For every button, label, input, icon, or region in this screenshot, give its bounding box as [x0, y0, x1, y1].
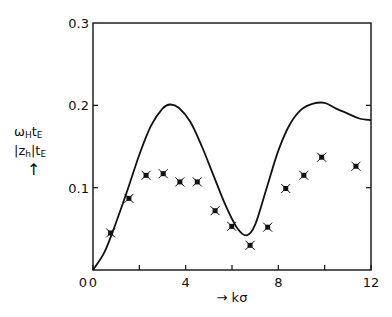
data-point-marker — [161, 171, 166, 176]
data-point-marker — [195, 179, 200, 184]
x-tick-label: 12 — [363, 275, 380, 290]
y-label-sub-e2: E — [40, 149, 46, 159]
y-label-omega: ωHtE — [14, 124, 46, 143]
y-tick-label: 0.1 — [68, 181, 89, 196]
x-tick-label: 8 — [274, 275, 282, 290]
data-point-marker — [213, 208, 218, 213]
data-point-marker — [229, 224, 234, 229]
y-axis-label: ωHtE |zh|tE — [14, 124, 46, 162]
y-label-t2: |t — [31, 143, 40, 158]
data-point-marker — [283, 186, 288, 191]
data-point-marker — [126, 196, 131, 201]
y-tick-label: 0 — [79, 275, 87, 290]
y-tick-label: 0.3 — [68, 16, 89, 31]
chart-plot: 0481200.10.20.3→ kσ — [0, 0, 392, 317]
x-tick-label: 4 — [182, 275, 190, 290]
curve-omega-h — [93, 102, 371, 270]
arrow-up-icon: ↑ — [27, 160, 40, 179]
data-point-marker — [248, 243, 253, 248]
plot-frame — [93, 23, 371, 270]
data-point-marker — [108, 230, 113, 235]
data-point-marker — [353, 164, 358, 169]
data-point-marker — [144, 173, 149, 178]
y-label-z-symbol: |z — [14, 143, 25, 158]
y-label-omega-symbol: ω — [14, 124, 25, 139]
x-tick-label: 0 — [89, 275, 97, 290]
y-label-sub-e: E — [37, 130, 43, 140]
y-label-sub-h: H — [25, 130, 32, 140]
data-point-marker — [177, 179, 182, 184]
data-point-marker — [319, 155, 324, 160]
data-point-marker — [265, 225, 270, 230]
x-axis-label: → kσ — [217, 290, 248, 305]
data-point-marker — [301, 173, 306, 178]
y-tick-label: 0.2 — [68, 98, 89, 113]
